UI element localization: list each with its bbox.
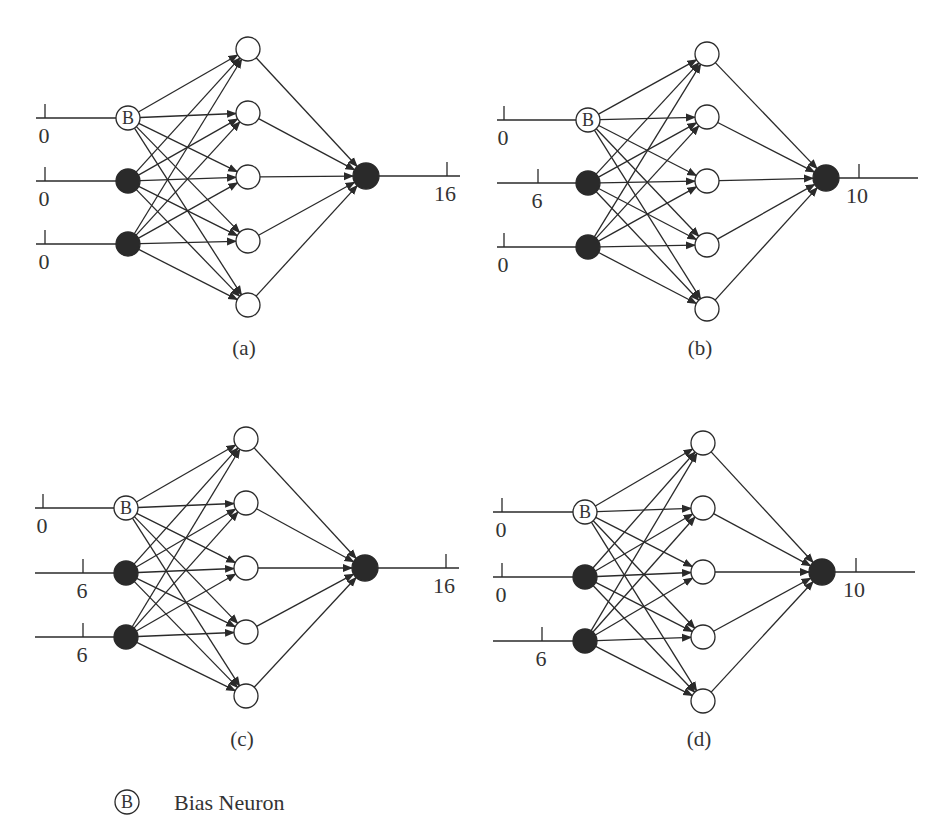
input-neuron: [116, 232, 140, 256]
hidden-output-connection: [715, 63, 817, 169]
hidden-output-connection: [254, 448, 356, 559]
output-neuron: [352, 555, 378, 581]
input-hidden-connection: [139, 249, 238, 299]
hidden-output-connection: [260, 176, 353, 177]
output-value-label: 10: [843, 577, 865, 602]
hidden-neuron: [234, 684, 258, 708]
hidden-neuron: [695, 42, 719, 66]
hidden-neuron: [236, 37, 260, 61]
hidden-output-connection: [715, 188, 817, 300]
panel-c: 066B16(c): [35, 427, 459, 751]
input-hidden-connection: [132, 449, 240, 626]
output-value-label: 10: [846, 183, 868, 208]
input-value-label: 0: [37, 513, 48, 538]
bias-neuron-label: B: [122, 108, 134, 128]
input-value-label: 6: [532, 188, 543, 213]
hidden-neuron: [695, 169, 719, 193]
diagram-panels: 000B16(a)060B10(b)066B16(c)006B10(d): [35, 37, 918, 751]
input-hidden-connection: [595, 578, 692, 635]
input-hidden-connection: [136, 58, 240, 172]
hidden-neuron: [695, 233, 719, 257]
hidden-output-connection: [719, 178, 813, 180]
input-neuron: [114, 625, 138, 649]
hidden-neuron: [236, 101, 260, 125]
output-neuron: [809, 559, 835, 585]
hidden-neuron: [234, 556, 258, 580]
output-value-label: 16: [434, 181, 456, 206]
input-hidden-connection: [593, 517, 695, 632]
input-value-label: 0: [39, 123, 50, 148]
hidden-output-connection: [714, 578, 811, 631]
input-hidden-connection: [596, 646, 693, 695]
input-value-label: 6: [77, 578, 88, 603]
input-neuron: [114, 561, 138, 585]
input-hidden-connection: [134, 512, 238, 628]
neural-network-figure: 000B16(a)060B10(b)066B16(c)006B10(d) B B…: [0, 0, 943, 835]
output-neuron: [813, 165, 839, 191]
hidden-output-connection: [711, 582, 813, 693]
hidden-neuron: [691, 496, 715, 520]
input-value-label: 6: [77, 642, 88, 667]
input-hidden-connection: [134, 448, 238, 564]
hidden-output-connection: [259, 119, 355, 170]
panel-caption: (d): [687, 727, 712, 751]
input-hidden-connection: [597, 637, 691, 640]
input-value-label: 0: [496, 517, 507, 542]
bias-neuron-label: B: [582, 110, 594, 130]
hidden-neuron: [691, 560, 715, 584]
input-value-label: 6: [536, 646, 547, 671]
panel-caption: (a): [232, 336, 255, 360]
input-value-label: 0: [39, 186, 50, 211]
input-hidden-connection: [594, 64, 700, 237]
hidden-output-connection: [714, 514, 811, 566]
input-neuron: [573, 565, 597, 589]
input-hidden-connection: [595, 449, 692, 506]
input-value-label: 0: [496, 582, 507, 607]
hidden-output-connection: [257, 574, 354, 626]
hidden-neuron: [695, 105, 719, 129]
hidden-output-connection: [257, 509, 354, 562]
input-hidden-connection: [136, 574, 235, 631]
input-hidden-connection: [134, 59, 241, 234]
panel-a: 000B16(a): [36, 37, 460, 360]
hidden-output-connection: [254, 578, 356, 688]
input-hidden-connection: [136, 445, 235, 502]
input-neuron: [573, 629, 597, 653]
hidden-neuron: [234, 620, 258, 644]
input-hidden-connection: [599, 253, 697, 304]
hidden-output-connection: [717, 184, 814, 239]
legend-label: Bias Neuron: [174, 790, 285, 815]
input-neuron: [116, 169, 140, 193]
hidden-neuron: [691, 431, 715, 455]
hidden-output-connection: [256, 58, 357, 167]
input-hidden-connection: [138, 632, 234, 636]
input-neuron: [576, 171, 600, 195]
hidden-output-connection: [718, 122, 815, 172]
input-hidden-connection: [591, 453, 697, 630]
hidden-output-connection: [259, 182, 355, 235]
input-neuron: [576, 235, 600, 259]
hidden-neuron: [236, 293, 260, 317]
output-neuron: [353, 163, 379, 189]
input-hidden-connection: [593, 452, 695, 568]
panel-b: 060B10(b): [497, 42, 918, 360]
bias-neuron-label: B: [579, 502, 591, 522]
bias-neuron-label: B: [120, 498, 132, 518]
hidden-neuron: [236, 165, 260, 189]
hidden-neuron: [236, 229, 260, 253]
input-hidden-connection: [600, 245, 695, 247]
input-hidden-connection: [598, 60, 696, 114]
panel-caption: (b): [688, 336, 713, 360]
input-hidden-connection: [596, 63, 699, 174]
panel-caption: (c): [230, 727, 253, 751]
input-hidden-connection: [137, 642, 235, 690]
input-hidden-connection: [598, 187, 696, 241]
hidden-neuron: [234, 427, 258, 451]
input-value-label: 0: [498, 125, 509, 150]
input-hidden-connection: [138, 55, 237, 112]
input-value-label: 0: [498, 252, 509, 277]
hidden-output-connection: [711, 452, 813, 563]
hidden-neuron: [234, 491, 258, 515]
hidden-neuron: [691, 689, 715, 713]
hidden-neuron: [695, 297, 719, 321]
